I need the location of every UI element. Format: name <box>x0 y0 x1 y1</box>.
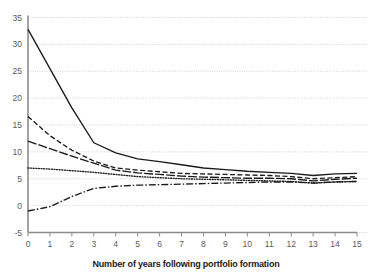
x-tick-label: 5 <box>135 239 140 249</box>
series-dash-dot <box>28 181 357 211</box>
y-tick-label: 10 <box>13 147 23 157</box>
y-tick-label: 35 <box>13 13 23 23</box>
x-tick-label: 1 <box>48 239 53 249</box>
x-tick-label: 0 <box>26 239 31 249</box>
x-tick-label: 15 <box>352 239 362 249</box>
x-tick-label: 14 <box>330 239 340 249</box>
y-tick-labels: -505101520253035 <box>13 13 23 238</box>
y-tick-label: -5 <box>14 228 22 238</box>
x-tick-label: 12 <box>286 239 296 249</box>
x-tick-label: 11 <box>265 239 274 249</box>
x-tick-labels: 0123456789101112131415 <box>26 239 362 249</box>
data-series-group <box>28 29 357 211</box>
x-tick-label: 6 <box>157 239 162 249</box>
y-tick-label: 5 <box>17 174 22 184</box>
y-tick-label: 0 <box>17 201 22 211</box>
y-tick-label: 25 <box>13 66 23 76</box>
line-chart: -505101520253035 0123456789101112131415 <box>0 0 372 279</box>
x-tick-label: 3 <box>91 239 96 249</box>
chart-figure: -505101520253035 0123456789101112131415 … <box>0 0 372 279</box>
x-tick-label: 13 <box>308 239 318 249</box>
gridlines <box>28 18 368 233</box>
x-tick-label: 10 <box>243 239 253 249</box>
x-tick-label: 8 <box>201 239 206 249</box>
x-tick-label: 9 <box>223 239 228 249</box>
x-tick-label: 2 <box>69 239 74 249</box>
x-tick-label: 4 <box>113 239 118 249</box>
y-tick-label: 20 <box>13 93 23 103</box>
x-tick-label: 7 <box>179 239 184 249</box>
y-tick-label: 30 <box>13 39 23 49</box>
y-tick-label: 15 <box>13 120 23 130</box>
series-dashed <box>28 116 357 178</box>
x-axis-title: Number of years following portfolio form… <box>0 259 372 269</box>
